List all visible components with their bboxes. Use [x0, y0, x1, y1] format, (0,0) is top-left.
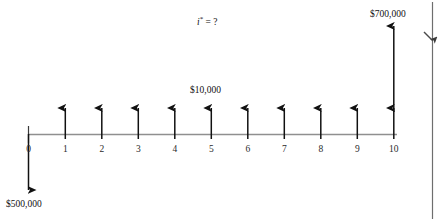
tick-label-6: 6 — [238, 145, 258, 155]
annuity-amount-label: $10,000 — [190, 86, 221, 96]
tick-label-1: 1 — [55, 145, 75, 155]
initial-cost-label: $500,000 — [6, 200, 42, 210]
tick-label-10: 10 — [384, 145, 404, 155]
page-edge-artifact — [424, 2, 433, 219]
diagram-canvas — [0, 0, 439, 219]
tick-label-7: 7 — [274, 145, 294, 155]
interest-rate-value: ? — [213, 17, 217, 27]
tick-label-5: 5 — [201, 145, 221, 155]
tick-label-0: 0 — [19, 145, 39, 155]
tick-label-9: 9 — [347, 145, 367, 155]
tick-label-8: 8 — [311, 145, 331, 155]
tick-label-4: 4 — [165, 145, 185, 155]
interest-rate-annotation: i* = ? — [197, 16, 217, 28]
tick-label-2: 2 — [92, 145, 112, 155]
salvage-value-label: $700,000 — [370, 10, 406, 20]
cash-flow-diagram: i* = ? $700,000 $10,000 $500,000 0 1 2 3… — [0, 0, 439, 219]
tick-label-3: 3 — [128, 145, 148, 155]
